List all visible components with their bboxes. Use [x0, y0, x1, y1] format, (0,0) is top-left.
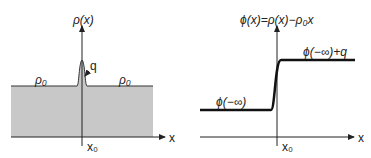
right-x-axis-label: x: [358, 132, 364, 144]
peak-q-label: q: [90, 60, 97, 72]
rho0-right-label: ρ₀: [119, 74, 131, 86]
left-x0-label: x₀: [87, 141, 98, 153]
left-y-axis-label: ρ(x): [73, 14, 94, 26]
left-x-axis-label: x: [169, 132, 175, 144]
diagram-canvas: [0, 0, 371, 158]
right-x0-label: x₀: [282, 141, 293, 153]
right-phi-plot: [200, 26, 355, 146]
phi-low-label: ϕ(−∞): [216, 96, 246, 108]
q-pointer-arrow: [85, 71, 89, 76]
phi-high-label: ϕ(−∞)+q: [303, 46, 347, 58]
right-y-axis-label: ϕ(x)=ρ(x)−ρ₀x: [240, 14, 313, 26]
rho0-left-label: ρ₀: [35, 74, 47, 86]
